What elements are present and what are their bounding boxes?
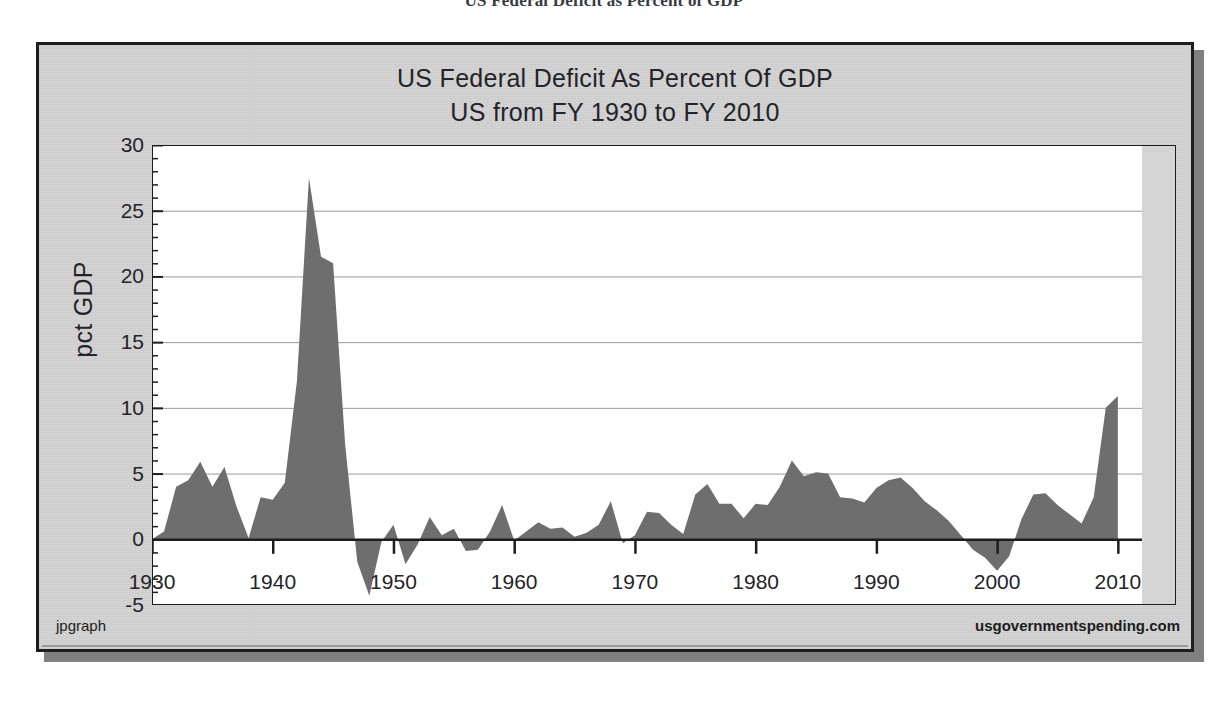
y-tick-25: 25 bbox=[121, 199, 144, 223]
chart-title-block: US Federal Deficit As Percent Of GDP US … bbox=[39, 61, 1191, 129]
y-tick-5: 5 bbox=[132, 462, 144, 486]
x-tick-1940: 1940 bbox=[249, 570, 296, 594]
plot-right-margin-mask bbox=[1142, 146, 1175, 604]
y-tick-30: 30 bbox=[121, 133, 144, 157]
x-tick-1930: 1930 bbox=[129, 570, 176, 594]
x-axis-tick-labels: 193019401950196019701980199020002010 bbox=[152, 570, 1176, 600]
y-tick-0: 0 bbox=[132, 527, 144, 551]
chart-title-primary: US Federal Deficit As Percent Of GDP bbox=[39, 61, 1191, 95]
footer-divider bbox=[42, 645, 1188, 647]
footer-library-credit: jpgraph bbox=[56, 617, 106, 634]
y-tick-10: 10 bbox=[121, 396, 144, 420]
plot-area bbox=[152, 145, 1176, 605]
x-tick-1950: 1950 bbox=[370, 570, 417, 594]
chart-title-secondary: US from FY 1930 to FY 2010 bbox=[39, 95, 1191, 129]
x-tick-1980: 1980 bbox=[732, 570, 779, 594]
x-tick-1970: 1970 bbox=[612, 570, 659, 594]
y-tick-20: 20 bbox=[121, 264, 144, 288]
y-axis-tick-labels: -5051015202530 bbox=[86, 145, 144, 605]
x-tick-1990: 1990 bbox=[853, 570, 900, 594]
x-axis-strip: 193019401950196019701980199020002010 bbox=[39, 570, 1191, 600]
footer-source-site: usgovernmentspending.com bbox=[975, 617, 1180, 634]
page-header-title: US Federal Deficit as Percent of GDP bbox=[0, 0, 1208, 11]
y-tick-15: 15 bbox=[121, 330, 144, 354]
chart-footer: jpgraph usgovernmentspending.com bbox=[42, 617, 1188, 643]
x-tick-1960: 1960 bbox=[491, 570, 538, 594]
chart-frame: US Federal Deficit As Percent Of GDP US … bbox=[36, 42, 1194, 652]
x-tick-2000: 2000 bbox=[974, 570, 1021, 594]
x-tick-2010: 2010 bbox=[1094, 570, 1141, 594]
deficit-area-chart bbox=[152, 145, 1176, 605]
